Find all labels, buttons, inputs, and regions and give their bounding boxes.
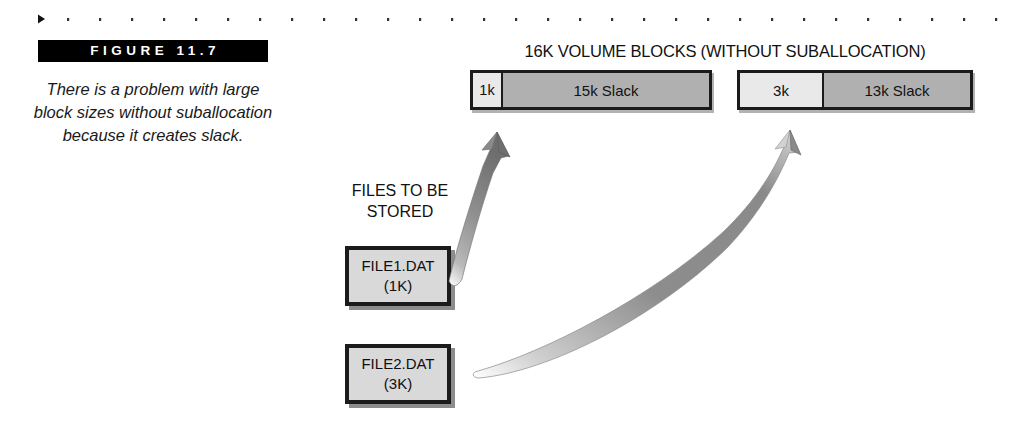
volume-block-1-slack-segment: 15k Slack [503,73,709,107]
file-box-file1-size: (1K) [384,276,412,296]
arrow-file2-to-block2 [473,130,801,378]
volume-block-1-used-segment: 1k [473,73,503,107]
file-box-file2-size: (3K) [384,374,412,394]
volume-block-2-used-segment: 3k [740,73,824,107]
figure-label-text: FIGURE 11.7 [38,40,268,62]
volume-block-2-slack-segment: 13k Slack [824,73,970,107]
figure-label-bar: FIGURE 11.7 [38,40,268,62]
volume-block-1: 1k 15k Slack [470,70,712,110]
files-to-be-stored-label: FILES TO BE STORED [325,180,475,222]
figure-page: FIGURE 11.7 There is a problem with larg… [0,0,1020,425]
rule-dots [67,18,997,21]
arrows-layer [0,0,1020,425]
file-box-file1-name: FILE1.DAT [361,256,434,276]
triangle-marker [38,15,45,24]
volume-blocks-heading: 16K VOLUME BLOCKS (WITHOUT SUBALLOCATION… [460,42,990,61]
figure-caption: There is a problem with large block size… [26,78,280,147]
volume-block-2: 3k 13k Slack [737,70,973,110]
file-box-file2-name: FILE2.DAT [361,354,434,374]
file-box-file1: FILE1.DAT (1K) [345,246,451,306]
file-box-file2: FILE2.DAT (3K) [345,344,451,404]
dotted-rule [38,14,1008,24]
